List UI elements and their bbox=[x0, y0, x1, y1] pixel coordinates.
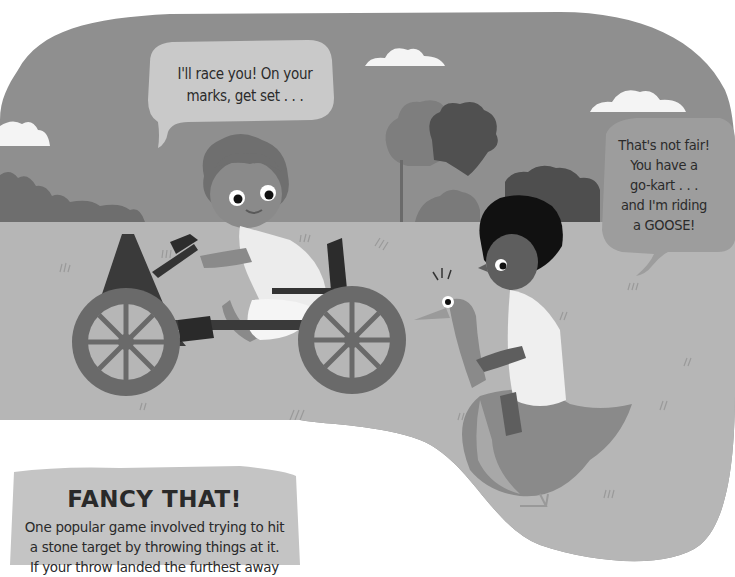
fancy-that-title: FANCY THAT! bbox=[12, 486, 297, 512]
speech-line: a GOOSE! bbox=[600, 215, 728, 235]
speech-line: That's not fair! bbox=[600, 135, 728, 155]
speech-line: and I'm riding bbox=[600, 195, 728, 215]
speech-line: You have a bbox=[600, 155, 728, 175]
speech-bubble-1-text: I'll race you! On your marks, get set . … bbox=[160, 63, 330, 107]
fancy-that-line: If your throw landed the furthest away bbox=[12, 557, 297, 577]
speech-bubble-2-text: That's not fair! You have a go-kart . . … bbox=[600, 135, 728, 235]
speech-line: go-kart . . . bbox=[600, 175, 728, 195]
speech-line: I'll race you! On your bbox=[160, 63, 330, 85]
wheel bbox=[298, 286, 406, 394]
fancy-that-body: One popular game involved trying to hit … bbox=[12, 517, 297, 577]
speech-line: marks, get set . . . bbox=[160, 85, 330, 107]
fancy-that-line: a stone target by throwing things at it. bbox=[12, 537, 297, 557]
wheel bbox=[72, 288, 180, 396]
fancy-that-line: One popular game involved trying to hit bbox=[12, 517, 297, 537]
